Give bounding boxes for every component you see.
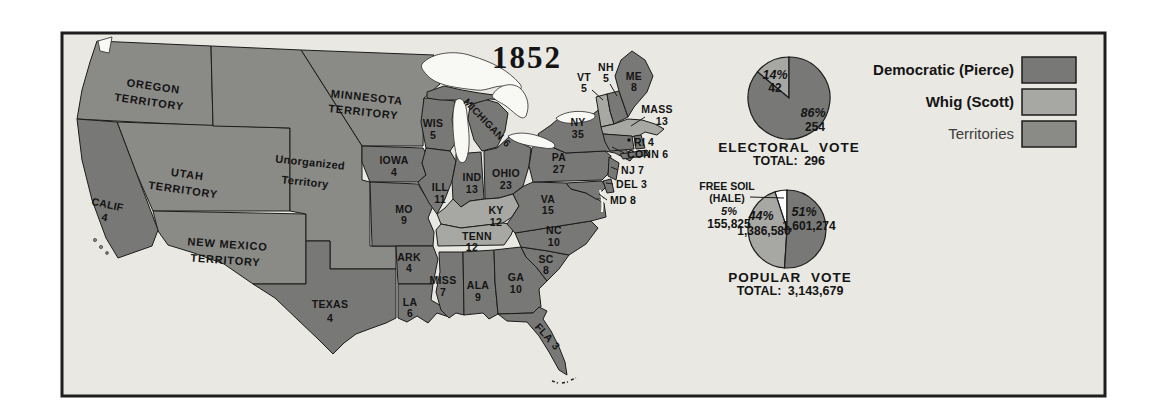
state-label-new-york: NY	[570, 116, 585, 128]
svg-text:35: 35	[572, 128, 584, 140]
popular-whig-pct: 44%	[747, 209, 773, 223]
svg-text:8: 8	[631, 81, 637, 93]
legend-label-territories: Territories	[948, 125, 1014, 142]
state-label-ohio: OHIO	[492, 167, 520, 179]
legend-label-democratic: Democratic (Pierce)	[873, 61, 1014, 78]
channel-island	[106, 252, 109, 255]
svg-text:23: 23	[500, 179, 512, 191]
svg-text:11: 11	[434, 193, 446, 205]
svg-text:4: 4	[391, 166, 397, 178]
legend-swatch-democratic	[1022, 57, 1076, 83]
svg-text:27: 27	[553, 163, 565, 175]
state-label-north-carolina: NC	[546, 224, 562, 236]
svg-text:4: 4	[327, 312, 333, 324]
svg-text:9: 9	[401, 214, 407, 226]
state-label-pennsylvania: PA	[552, 151, 567, 163]
state-label-indiana: IND	[463, 171, 482, 183]
free-soil-pct: 5%	[721, 205, 737, 217]
channel-island	[99, 245, 102, 248]
legend-label-whig: Whig (Scott)	[926, 93, 1014, 110]
popular-vote-total: TOTAL: 3,143,679	[737, 284, 844, 298]
electoral-dem-pct: 86%	[800, 106, 825, 120]
state-label-kentucky: KY	[488, 204, 503, 216]
channel-island	[93, 238, 96, 241]
svg-text:10: 10	[510, 283, 522, 295]
svg-text:12: 12	[490, 216, 502, 228]
map-year-title: 1852	[492, 40, 562, 75]
state-label-alabama: ALA	[467, 279, 490, 291]
callout-label-delaware: DEL3	[616, 178, 647, 190]
free-soil-label: FREE SOIL	[699, 180, 755, 192]
callout-label-rhode-island: RI4	[634, 136, 654, 148]
electoral-whig-pct: 14%	[762, 68, 787, 82]
svg-text:8: 8	[543, 264, 549, 276]
atlas-page: 1852 OREGON TERRITORY MINNESOTA TERRITOR…	[0, 0, 1161, 412]
state-label-georgia: GA	[508, 271, 524, 283]
electoral-vote-pie-chart: 14% 42 86% 254	[748, 57, 830, 139]
electoral-dem-value: 254	[805, 120, 825, 134]
callout-label-maryland: MD8	[610, 194, 636, 206]
svg-text:5: 5	[603, 72, 609, 84]
svg-text:10: 10	[548, 236, 560, 248]
callout-label-new-jersey: NJ7	[621, 164, 644, 176]
free-soil-candidate: (HALE)	[709, 192, 745, 204]
svg-text:6: 6	[407, 307, 413, 319]
popular-dem-pct: 51%	[791, 205, 816, 219]
state-label-texas: TEXAS	[312, 298, 349, 310]
svg-text:13: 13	[656, 115, 668, 127]
state-label-iowa: IOWA	[379, 154, 408, 166]
svg-text:15: 15	[542, 204, 554, 216]
election-map-1852: 1852 OREGON TERRITORY MINNESOTA TERRITOR…	[0, 0, 1161, 412]
electoral-whig-value: 42	[768, 81, 782, 95]
svg-text:9: 9	[475, 291, 481, 303]
svg-text:4: 4	[406, 262, 412, 274]
legend-swatch-territories	[1022, 121, 1076, 147]
rhode-island-marker-dot	[627, 138, 631, 142]
svg-text:13: 13	[466, 183, 478, 195]
svg-text:5: 5	[581, 82, 587, 94]
callout-label-massachusetts: MASS	[641, 103, 673, 115]
legend-swatch-whig	[1022, 89, 1076, 115]
popular-vote-title: POPULAR VOTE	[728, 270, 852, 285]
electoral-vote-title: ELECTORAL VOTE	[718, 140, 860, 155]
free-soil-value: 155,825	[707, 217, 751, 231]
electoral-vote-total: TOTAL: 296	[753, 154, 825, 168]
svg-text:12: 12	[466, 241, 478, 253]
state-label-mississippi: MISS	[430, 274, 457, 286]
svg-text:7: 7	[440, 286, 446, 298]
state-label-wisconsin: WIS	[423, 117, 444, 129]
svg-text:5: 5	[430, 129, 436, 141]
callout-label-connecticut: CONN6	[627, 148, 668, 160]
state-label-illinois: ILL	[432, 181, 449, 193]
